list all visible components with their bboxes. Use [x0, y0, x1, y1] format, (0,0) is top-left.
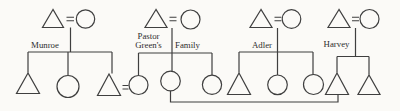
- harvey-father-triangle: [328, 10, 350, 28]
- family-adler: Adler: [228, 10, 324, 95]
- greens-child-2-circle: [161, 71, 181, 91]
- harvey-label: Harvey: [324, 39, 350, 49]
- munroe-label: Munroe: [31, 40, 59, 50]
- family-munroe: Munroe: [17, 10, 129, 98]
- harvey-child-1-triangle: [326, 73, 349, 95]
- kinship-diagram-figure: Munroe Pastor Green's Family Adler: [0, 0, 400, 111]
- munroe-child-2-circle: [57, 76, 79, 98]
- adler-father-triangle: [250, 10, 272, 28]
- munroe-child-1-triangle: [17, 73, 40, 94]
- greens-marriage-equals: [170, 17, 177, 21]
- munroe-marriage-equals: [67, 17, 75, 21]
- adler-child-2-circle: [268, 75, 288, 95]
- greens-label-line2: Green's: [135, 40, 162, 50]
- greens-label-line3: Family: [175, 40, 201, 50]
- adler-child-3-circle: [304, 75, 324, 95]
- adler-mother-circle: [282, 10, 301, 29]
- harvey-marriage-equals: [352, 17, 359, 21]
- greens-child-1-circle: [129, 76, 148, 95]
- adler-child-1-triangle: [228, 73, 251, 95]
- family-harvey: Harvey: [324, 10, 380, 95]
- kinship-diagram-svg: Munroe Pastor Green's Family Adler: [0, 0, 400, 111]
- greens-father-triangle: [145, 10, 167, 28]
- adler-label: Adler: [252, 40, 272, 50]
- harvey-descent-lines: [337, 28, 369, 75]
- munroe-mother-circle: [76, 10, 94, 28]
- munroe-descent-lines: [28, 28, 112, 76]
- harvey-child-2-triangle: [358, 75, 380, 95]
- adler-descent-lines: [239, 28, 313, 75]
- harvey-mother-circle: [360, 10, 379, 29]
- adler-marriage-equals: [275, 17, 282, 21]
- greens-mother-circle: [181, 10, 200, 29]
- munroe-father-triangle: [43, 10, 64, 28]
- munroe-green-marriage-equals: [123, 86, 129, 90]
- munroe-child-3-triangle: [98, 74, 121, 96]
- greens-child-3-circle: [202, 75, 221, 94]
